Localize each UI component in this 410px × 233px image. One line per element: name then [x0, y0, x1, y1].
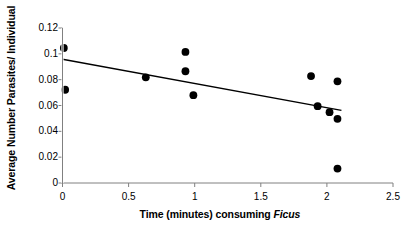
- data-point: [182, 48, 190, 56]
- x-axis-tick-marks: [63, 183, 394, 187]
- data-point: [60, 44, 68, 52]
- x-axis-label-plain: Time (minutes) consuming: [140, 208, 274, 220]
- data-point: [189, 91, 197, 99]
- data-point: [314, 102, 322, 110]
- data-point: [326, 108, 334, 116]
- data-point: [334, 165, 342, 173]
- data-point: [307, 72, 315, 80]
- data-point: [334, 77, 342, 85]
- data-point: [334, 115, 342, 123]
- data-point: [142, 73, 150, 81]
- axis-lines: [63, 28, 394, 183]
- plot-area: [0, 0, 410, 233]
- x-axis-label-italic: Ficus: [273, 208, 300, 220]
- chart-figure: Average Number Parasites/ Individual 00.…: [0, 0, 410, 233]
- data-point: [182, 67, 190, 75]
- data-points: [60, 44, 341, 172]
- trend-line-segment: [63, 59, 342, 110]
- x-axis-label: Time (minutes) consuming Ficus: [40, 208, 400, 220]
- trend-line: [63, 59, 342, 110]
